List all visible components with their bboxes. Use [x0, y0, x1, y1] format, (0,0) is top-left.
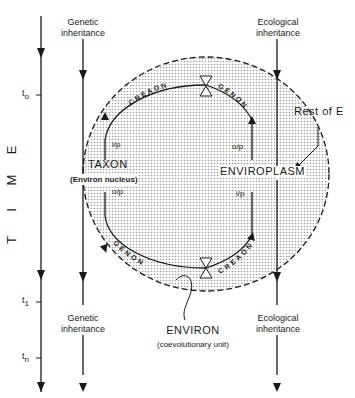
- taxon-label: TAXON: [88, 159, 128, 170]
- input-label-right: i/p: [236, 188, 244, 199]
- time-letter: I: [4, 195, 34, 225]
- time-letter: M: [4, 165, 34, 195]
- genetic-inheritance-top-label: Genetic inheritance: [58, 17, 108, 39]
- time-letter: T: [4, 225, 34, 255]
- coevolutionary-unit-label: (coevolutionary unit): [140, 339, 246, 350]
- rest-of-e-label: Rest of E: [294, 106, 344, 117]
- ecological-inheritance-top-label: Ecological inheritance: [250, 17, 306, 39]
- tick-t1: t1: [22, 295, 29, 309]
- tick-tn: tn: [22, 351, 29, 365]
- output-label-left: o/p: [112, 186, 123, 197]
- time-axis-label: E M I T: [4, 135, 34, 255]
- environ-label: ENVIRON: [158, 325, 228, 336]
- environ-nucleus-label: (Environ nucleus): [70, 174, 138, 185]
- time-letter: E: [4, 135, 34, 165]
- genetic-inheritance-line: [79, 38, 87, 392]
- genetic-inheritance-bottom-label: Genetic inheritance: [58, 313, 108, 335]
- output-label-right: o/p: [232, 141, 243, 152]
- tick-t0: to: [22, 88, 29, 102]
- enviroplasm-label: ENVIROPLASM: [220, 166, 305, 177]
- ecological-inheritance-bottom-label: Ecological inheritance: [250, 313, 306, 335]
- time-axis-line: [36, 16, 45, 392]
- input-label-left: i/p: [112, 139, 120, 150]
